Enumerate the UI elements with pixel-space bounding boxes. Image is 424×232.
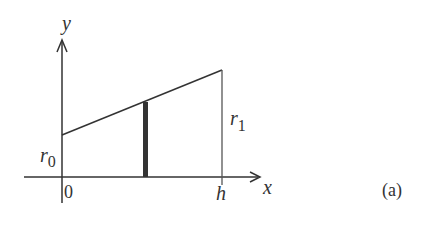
diagram-svg: y x 0 h r0 r1 (a) [0, 0, 424, 232]
h-label: h [216, 182, 226, 204]
r1-subscript: 1 [238, 117, 246, 134]
x-axis-label: x [262, 176, 272, 198]
figure-label: (a) [382, 180, 402, 201]
profile-line [62, 70, 222, 135]
x-axis [24, 172, 260, 182]
r1-base: r [230, 107, 238, 129]
r1-label: r1 [230, 107, 246, 134]
y-axis [57, 40, 67, 203]
origin-label: 0 [64, 182, 73, 202]
r0-base: r [40, 144, 48, 166]
r0-label: r0 [40, 144, 56, 170]
r0-subscript: 0 [48, 153, 56, 170]
diagram-canvas: y x 0 h r0 r1 (a) [0, 0, 424, 232]
y-axis-label: y [60, 12, 71, 35]
thick-strip [143, 102, 148, 177]
